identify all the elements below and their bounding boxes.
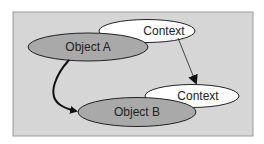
diagram-canvas: Context Object A Context Object B [0, 0, 264, 144]
node-context-top-label: Context [143, 24, 185, 38]
node-object-a: Object A [28, 33, 148, 61]
node-object-b-label: Object B [114, 105, 160, 119]
node-object-a-label: Object A [65, 40, 110, 54]
node-context-bottom-label: Context [177, 89, 219, 103]
node-object-b: Object B [78, 98, 196, 127]
